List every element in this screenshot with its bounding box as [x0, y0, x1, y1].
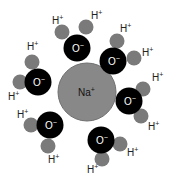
hydrogen-label: H+: [142, 46, 153, 58]
hydrogen-label: H+: [91, 9, 102, 21]
hydrogen-atom: [25, 55, 40, 70]
hydrogen-atom: [55, 25, 70, 40]
hydrogen-atom: [113, 137, 128, 152]
sodium-hydration-diagram: Na+ O−H+H+O−H+H+O−H+H+O−H+H+O−H+H+O−H+H+: [0, 0, 172, 180]
hydrogen-atom: [79, 20, 94, 35]
hydrogen-atom: [24, 118, 39, 133]
hydrogen-label: H+: [127, 146, 138, 158]
water-molecule: O−H+H+: [100, 22, 154, 75]
hydrogen-label: H+: [8, 90, 19, 102]
hydrogen-label: H+: [27, 40, 38, 52]
hydrogen-label: H+: [152, 71, 163, 83]
hydrogen-label: H+: [120, 22, 131, 34]
hydrogen-label: H+: [48, 153, 59, 165]
water-molecule: O−H+H+: [52, 9, 102, 62]
water-molecule: O−H+H+: [87, 127, 138, 176]
hydrogen-atom: [127, 51, 142, 66]
water-molecule: O−H+H+: [17, 108, 64, 165]
hydrogen-atom: [41, 139, 56, 154]
hydrogen-label: H+: [52, 14, 63, 26]
water-molecule: O−H+H+: [8, 40, 52, 102]
hydrogen-label: H+: [148, 120, 159, 132]
hydrogen-atom: [110, 34, 125, 49]
hydrogen-label: H+: [87, 163, 98, 175]
hydrogen-label: H+: [17, 108, 28, 120]
water-molecule: O−H+H+: [116, 71, 164, 132]
